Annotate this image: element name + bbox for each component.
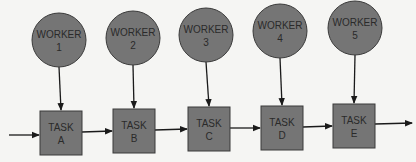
workers: WORKER1WORKER2WORKER3WORKER4WORKER5: [32, 1, 382, 67]
task-letter: B: [131, 133, 138, 144]
worker-to-task-arrow: [133, 65, 134, 108]
task-label: TASK: [196, 118, 222, 129]
diagram-svg: WORKER1WORKER2WORKER3WORKER4WORKER5 TASK…: [0, 0, 416, 162]
worker-label: WORKER: [37, 29, 82, 40]
task-node: TASKE: [333, 104, 375, 148]
task-node: TASKB: [113, 109, 155, 153]
worker-label: WORKER: [184, 24, 229, 35]
worker-node: WORKER3: [179, 8, 233, 62]
task-box: [188, 107, 230, 151]
worker-circle: [32, 13, 86, 67]
worker-node: WORKER2: [106, 11, 160, 65]
worker-label: WORKER: [333, 17, 378, 28]
task-box: [113, 109, 155, 153]
task-label: TASK: [121, 120, 147, 131]
worker-to-task-arrow: [206, 62, 209, 106]
worker-circle: [179, 8, 233, 62]
worker-number: 3: [203, 37, 209, 48]
task-flow-arrow: [82, 131, 112, 132]
task-node: TASKA: [40, 111, 82, 155]
task-label: TASK: [341, 115, 367, 126]
worker-to-task-arrow: [280, 58, 282, 105]
worker-number: 4: [277, 33, 283, 44]
worker-label: WORKER: [111, 27, 156, 38]
worker-number: 1: [56, 42, 62, 53]
task-flow-arrow: [155, 129, 187, 130]
worker-arrows: [59, 55, 355, 110]
worker-to-task-arrow: [354, 55, 355, 103]
worker-number: 2: [130, 40, 136, 51]
task-letter: A: [58, 135, 65, 146]
worker-node: WORKER4: [253, 4, 307, 58]
tasks: TASKATASKBTASKCTASKDTASKE: [40, 104, 375, 155]
task-letter: C: [205, 131, 212, 142]
worker-label: WORKER: [258, 20, 303, 31]
worker-node: WORKER5: [328, 1, 382, 55]
worker-circle: [106, 11, 160, 65]
task-letter: D: [278, 130, 285, 141]
assembly-line-diagram: WORKER1WORKER2WORKER3WORKER4WORKER5 TASK…: [0, 0, 416, 162]
task-node: TASKC: [188, 107, 230, 151]
task-label: TASK: [269, 117, 295, 128]
worker-node: WORKER1: [32, 13, 86, 67]
task-letter: E: [351, 128, 358, 139]
task-box: [261, 106, 303, 150]
task-box: [40, 111, 82, 155]
task-label: TASK: [48, 122, 74, 133]
worker-to-task-arrow: [59, 67, 61, 110]
output-arrow: [375, 123, 412, 124]
task-node: TASKD: [261, 106, 303, 150]
worker-number: 5: [352, 30, 358, 41]
task-box: [333, 104, 375, 148]
worker-circle: [253, 4, 307, 58]
worker-circle: [328, 1, 382, 55]
task-flow-arrow: [303, 126, 332, 127]
